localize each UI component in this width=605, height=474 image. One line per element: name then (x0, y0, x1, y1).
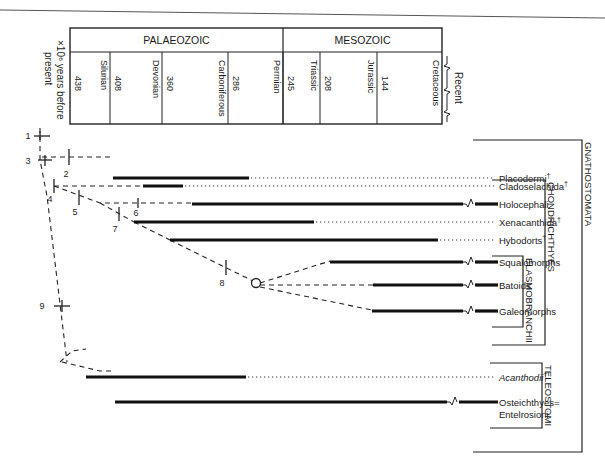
node-number: 9 (39, 301, 44, 311)
period-start-age: 245 (286, 76, 296, 91)
page-edge-line (0, 10, 605, 18)
taxon-label: Hybodorts† (499, 234, 546, 246)
taxon-batoids: Batoids (373, 280, 531, 291)
taxa-list: Placodermi†Cladoselachida†HolocephaliXen… (86, 172, 568, 421)
period-start-age: 286 (231, 76, 241, 91)
period-name: Carboniferous (217, 60, 227, 117)
extinct-dagger-icon: † (542, 234, 546, 241)
recent-label: Recent (453, 72, 464, 104)
node-4: 4 (47, 179, 54, 204)
cladogram-branches (40, 128, 373, 371)
time-break-icon (463, 199, 473, 207)
node-number: 8 (219, 278, 224, 288)
node-6: 6 (133, 198, 138, 218)
period-start-age: 408 (113, 76, 123, 91)
time-break-icon (447, 397, 457, 405)
taxon-placodermi: Placodermi† (113, 172, 551, 184)
node-number: 7 (112, 224, 117, 234)
axis-label-line-2: present (43, 52, 54, 86)
time-break-icon (463, 306, 473, 314)
taxon-hybodorts: Hybodorts† (170, 234, 546, 246)
taxon-cladoselachida: Cladoselachida† (143, 180, 568, 192)
group-elasmobranchii: ELASMOBRANCHII (492, 256, 535, 343)
node-number: 2 (63, 169, 68, 179)
node-number: 3 (25, 156, 30, 166)
node-9: 9 (39, 300, 70, 312)
taxon-holocephali: Holocephali (192, 199, 549, 210)
group-label: CHONDRICHTHYES (546, 182, 557, 272)
time-axis-label: ×10⁶ years before present (43, 40, 66, 120)
taxon-label-line-2: Entelrosioni (499, 409, 549, 420)
period-start-age: 360 (165, 76, 175, 91)
time-break-icon (463, 280, 473, 288)
node-8: 8 (219, 260, 226, 288)
recent-marker: Recent (444, 56, 464, 122)
period-name: Triassic (309, 60, 319, 91)
group-label: TELEOSTOMI (543, 365, 554, 426)
node-3: 3 (25, 155, 52, 166)
period-name: Permian (272, 60, 282, 94)
period-name: Jurassic (366, 60, 376, 94)
node-number: 1 (25, 131, 30, 141)
cladogram-diagram: PALAEOZOICMESOZOIC Silurian438Devonian40… (0, 0, 605, 474)
axis-label-line-1: ×10⁶ years before (55, 40, 66, 120)
node-2: 2 (63, 149, 69, 179)
period-start-age: 144 (380, 76, 390, 91)
era-label: MESOZOIC (334, 34, 390, 46)
node-5: 5 (72, 190, 79, 217)
node-number: 5 (72, 207, 77, 217)
period-name: Devonian (151, 60, 161, 98)
era-label: PALAEOZOIC (143, 34, 210, 46)
period-name: Silurian (99, 60, 109, 90)
node-1: 1 (25, 131, 50, 141)
taxon-xenacanthida: Xenacanthida† (134, 216, 561, 228)
extinct-dagger-icon: † (547, 172, 551, 179)
geological-time-table: PALAEOZOICMESOZOIC Silurian438Devonian40… (70, 28, 442, 124)
node-7: 7 (112, 207, 119, 234)
time-break-icon (463, 257, 473, 265)
period-name: Cretaceous (431, 60, 441, 107)
group-label: GNATHOSTOMATA (583, 142, 594, 227)
period-start-age: 438 (73, 76, 83, 91)
node-number: 6 (133, 208, 138, 218)
elasmobranchii-node-circle (252, 279, 261, 288)
taxon-acanthodii: Acanthodii† (86, 371, 547, 383)
taxon-label: Acanthodii† (498, 371, 547, 383)
taxon-osteichthyes: Osteichthyes=Entelrosioni (115, 397, 560, 421)
period-start-age: 208 (323, 76, 333, 91)
node-number: 4 (47, 194, 52, 204)
group-label: ELASMOBRANCHII (524, 258, 535, 343)
taxon-label: Holocephali (499, 199, 549, 210)
extinct-dagger-icon: † (564, 180, 568, 187)
